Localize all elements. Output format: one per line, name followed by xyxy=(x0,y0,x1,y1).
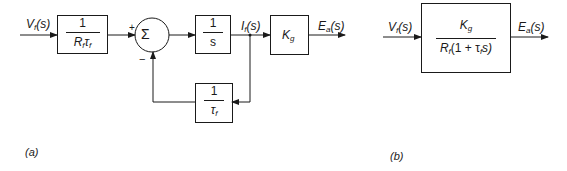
summer-minus-sign: − xyxy=(139,53,145,65)
summer-plus-sign: + xyxy=(129,22,135,34)
summer-sigma-symbol: Σ xyxy=(141,28,150,40)
intermediate-signal-label: If(s) xyxy=(241,20,261,36)
block-b-transfer-function: Kg Rf(1 + τfs) xyxy=(421,18,511,59)
block-2-transfer-function: 1 s xyxy=(195,16,231,49)
input-signal-label-a: Vf(s) xyxy=(26,18,50,34)
block-1-transfer-function: 1 Rfτf xyxy=(57,16,108,53)
block-3-gain: Kg xyxy=(282,29,294,45)
feedback-block-transfer-function: 1 τf xyxy=(195,84,233,121)
panel-b-label: (b) xyxy=(390,150,403,162)
output-signal-label-b: Ea(s) xyxy=(518,21,544,37)
input-signal-label-b: Vf(s) xyxy=(388,21,412,37)
panel-a-label: (a) xyxy=(25,146,38,158)
output-signal-label-a: Ea(s) xyxy=(318,20,344,36)
